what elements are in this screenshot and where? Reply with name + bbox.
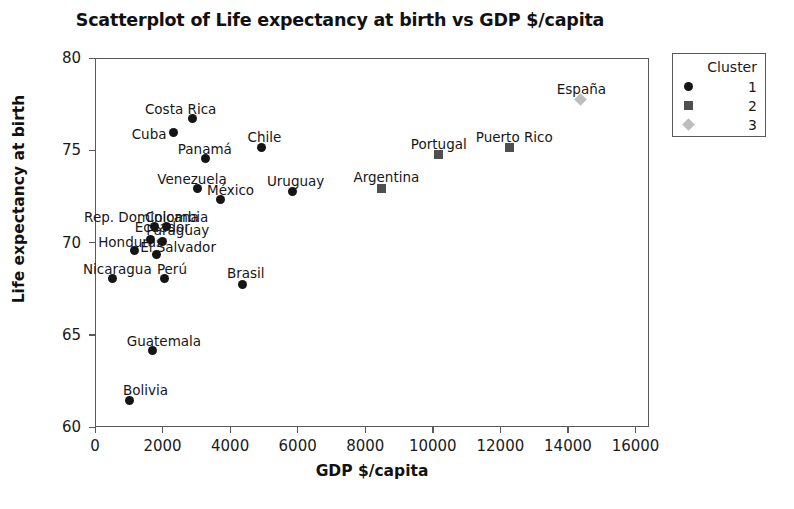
data-point-label: Perú: [157, 263, 187, 277]
data-point-label: Puerto Rico: [476, 131, 553, 145]
data-point: [158, 237, 167, 246]
data-point-label: Bolivia: [123, 384, 168, 398]
x-tick-mark: [95, 427, 96, 433]
x-tick-mark: [500, 427, 501, 433]
legend-marker: [682, 118, 695, 131]
x-tick-mark: [432, 427, 433, 433]
legend-entry: 3: [673, 116, 767, 134]
x-axis-title: GDP $/capita: [95, 462, 649, 480]
y-tick-label: 80: [41, 51, 81, 66]
legend-entry: 1: [673, 78, 767, 96]
data-point-label: Uruguay: [267, 175, 324, 189]
x-tick-mark: [230, 427, 231, 433]
chart-title: Scatterplot of Life expectancy at birth …: [0, 10, 680, 30]
data-point-label: España: [557, 83, 606, 97]
legend-label: 1: [748, 79, 757, 95]
data-point-label: Cuba: [132, 128, 167, 142]
legend-label: 2: [748, 98, 757, 114]
x-tick-mark: [162, 427, 163, 433]
data-point-label: Guatemala: [127, 335, 201, 349]
x-tick-label: 0: [60, 439, 130, 454]
y-tick-label: 70: [41, 236, 81, 251]
x-tick-label: 6000: [263, 439, 333, 454]
y-axis-title: Life expectancy at birth: [10, 34, 28, 364]
y-tick-label: 75: [41, 143, 81, 158]
y-tick-label: 65: [41, 328, 81, 343]
data-point-label: Portugal: [411, 138, 467, 152]
data-point: [169, 128, 178, 137]
data-point-label: Colombia: [145, 211, 208, 225]
x-tick-mark: [297, 427, 298, 433]
x-tick-label: 12000: [465, 439, 535, 454]
data-point: [146, 235, 155, 244]
data-point-marker: [169, 128, 178, 137]
legend-entry: 2: [673, 97, 767, 115]
data-point-label: Chile: [248, 131, 282, 145]
x-tick-label: 10000: [398, 439, 468, 454]
plot-area: BoliviaGuatemalaNicaraguaHondurasEl Salv…: [95, 58, 649, 427]
x-tick-label: 14000: [533, 439, 603, 454]
legend-title: Cluster: [707, 59, 757, 75]
x-tick-mark: [635, 427, 636, 433]
legend-marker: [684, 101, 693, 110]
scatterplot-figure: Scatterplot of Life expectancy at birth …: [0, 0, 794, 509]
x-tick-label: 2000: [128, 439, 198, 454]
legend: Cluster 123: [672, 53, 766, 137]
x-tick-label: 16000: [600, 439, 670, 454]
x-tick-mark: [365, 427, 366, 433]
data-point-label: Nicaragua: [83, 263, 152, 277]
data-point-label: Panamá: [178, 143, 232, 157]
data-point-label: Costa Rica: [145, 103, 216, 117]
x-tick-mark: [567, 427, 568, 433]
data-point-marker: [158, 237, 167, 246]
legend-label: 3: [748, 117, 757, 133]
x-tick-label: 8000: [330, 439, 400, 454]
legend-marker: [684, 82, 693, 91]
data-point-label: Brasil: [227, 267, 265, 281]
y-tick-label: 60: [41, 420, 81, 435]
data-point-label: Argentina: [353, 171, 419, 185]
x-tick-label: 4000: [195, 439, 265, 454]
data-point-marker: [146, 235, 155, 244]
data-point-label: Venezuela: [157, 173, 226, 187]
